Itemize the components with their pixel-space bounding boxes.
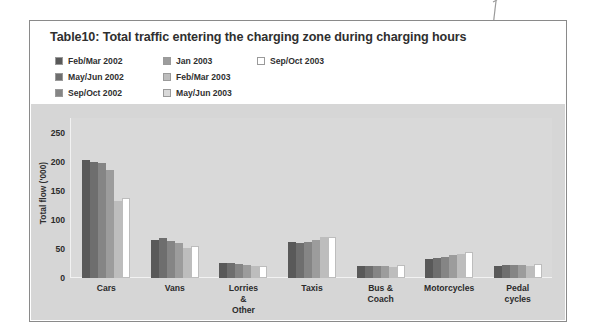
bar-set: [346, 118, 415, 278]
legend-item-label: Feb/Mar 2003: [176, 72, 230, 82]
bar[interactable]: [449, 255, 457, 278]
y-axis-tick-label: 50: [55, 244, 65, 254]
bar[interactable]: [235, 264, 243, 278]
bar[interactable]: [357, 266, 365, 278]
x-axis-category-label: Pedal cycles: [501, 283, 535, 305]
bar[interactable]: [106, 170, 114, 278]
bar[interactable]: [114, 201, 122, 278]
legend-item[interactable]: May/Jun 2002: [55, 70, 124, 83]
legend-item-label: Jan 2003: [176, 56, 212, 66]
bar[interactable]: [365, 266, 373, 278]
bar-group: Pedal cycles: [483, 118, 552, 278]
legend-swatch-icon: [163, 89, 171, 97]
bar[interactable]: [183, 248, 191, 278]
bar[interactable]: [288, 242, 296, 278]
bar[interactable]: [159, 238, 167, 278]
bar[interactable]: [502, 265, 510, 278]
bar[interactable]: [243, 265, 251, 278]
bar[interactable]: [122, 198, 130, 278]
bar[interactable]: [328, 237, 336, 278]
y-axis-tick-label: 250: [51, 128, 65, 138]
bar[interactable]: [219, 263, 227, 278]
bar[interactable]: [227, 263, 235, 278]
bar-set: [141, 118, 210, 278]
chart-title: Table10: Total traffic entering the char…: [50, 30, 466, 44]
bar[interactable]: [304, 242, 312, 278]
bar[interactable]: [82, 160, 90, 278]
x-axis-category-label: Cars: [97, 283, 116, 294]
legend-swatch-icon: [55, 89, 63, 97]
y-axis-tick-label: 200: [51, 157, 65, 167]
legend-item-label: May/Jun 2003: [176, 88, 232, 98]
legend-column-2: Jan 2003 Feb/Mar 2003 May/Jun 2003: [163, 54, 232, 102]
bar[interactable]: [494, 266, 502, 278]
bar[interactable]: [90, 162, 98, 278]
y-axis-tick-label: 100: [51, 215, 65, 225]
legend-swatch-icon: [55, 73, 63, 81]
legend-swatch-icon: [257, 57, 265, 65]
bar[interactable]: [465, 252, 473, 278]
bar[interactable]: [98, 163, 106, 278]
figure-frame: Table10: Total traffic entering the char…: [29, 20, 567, 322]
bar[interactable]: [151, 240, 159, 278]
bar[interactable]: [389, 267, 397, 278]
bar-groups: CarsVansLorries & OtherTaxisBus & CoachM…: [72, 118, 552, 278]
bar[interactable]: [441, 257, 449, 278]
y-axis-tick-label: 0: [60, 273, 65, 283]
bar[interactable]: [433, 258, 441, 278]
legend-item[interactable]: Feb/Mar 2002: [55, 54, 124, 67]
x-axis-category-label: Taxis: [301, 283, 322, 294]
legend-item[interactable]: Feb/Mar 2003: [163, 70, 232, 83]
bar-set: [415, 118, 484, 278]
y-axis-line: [70, 118, 71, 278]
legend-item[interactable]: Sep/Oct 2002: [55, 86, 124, 99]
legend-item[interactable]: Sep/Oct 2003: [257, 54, 324, 67]
x-axis-category-label: Bus & Coach: [363, 283, 397, 305]
bar[interactable]: [312, 240, 320, 278]
y-axis-title: Total flow ('000): [36, 113, 50, 273]
legend-item-label: Sep/Oct 2003: [270, 56, 324, 66]
bar[interactable]: [457, 254, 465, 278]
bar-group: Taxis: [278, 118, 347, 278]
bar-group: Cars: [72, 118, 141, 278]
bar-group: Vans: [141, 118, 210, 278]
bar[interactable]: [425, 259, 433, 278]
bar-set: [72, 118, 141, 278]
bar[interactable]: [510, 265, 518, 278]
y-axis-title-text: Total flow ('000): [38, 162, 48, 224]
bar-set: [278, 118, 347, 278]
bar[interactable]: [373, 266, 381, 278]
legend-item-label: Feb/Mar 2002: [68, 56, 122, 66]
legend-swatch-icon: [163, 73, 171, 81]
bar[interactable]: [526, 266, 534, 278]
bar[interactable]: [518, 265, 526, 278]
bar[interactable]: [175, 243, 183, 278]
y-axis-tick-label: 150: [51, 186, 65, 196]
bar[interactable]: [397, 265, 405, 278]
legend-column-1: Feb/Mar 2002 May/Jun 2002 Sep/Oct 2002: [55, 54, 124, 102]
bar-group: Motorcycles: [415, 118, 484, 278]
legend-column-3: Sep/Oct 2003: [257, 54, 324, 70]
bar-group: Bus & Coach: [346, 118, 415, 278]
x-axis-category-label: Motorcycles: [424, 283, 474, 294]
bar[interactable]: [320, 237, 328, 278]
bar[interactable]: [259, 266, 267, 278]
bar-set: [483, 118, 552, 278]
callout-line-tip: [493, 0, 497, 2]
legend-item-label: May/Jun 2002: [68, 72, 124, 82]
bar[interactable]: [534, 264, 542, 278]
x-axis-category-label: Vans: [165, 283, 185, 294]
legend-item[interactable]: Jan 2003: [163, 54, 232, 67]
legend-swatch-icon: [163, 57, 171, 65]
bar[interactable]: [381, 266, 389, 278]
bar[interactable]: [296, 243, 304, 278]
x-axis-category-label: Lorries & Other: [226, 283, 260, 316]
bar-group: Lorries & Other: [209, 118, 278, 278]
legend-item[interactable]: May/Jun 2003: [163, 86, 232, 99]
legend-item-label: Sep/Oct 2002: [68, 88, 122, 98]
bar[interactable]: [191, 246, 199, 278]
bar[interactable]: [167, 241, 175, 278]
plot-area: 050100150200250 CarsVansLorries & OtherT…: [70, 118, 552, 278]
bar-set: [209, 118, 278, 278]
bar[interactable]: [251, 266, 259, 278]
